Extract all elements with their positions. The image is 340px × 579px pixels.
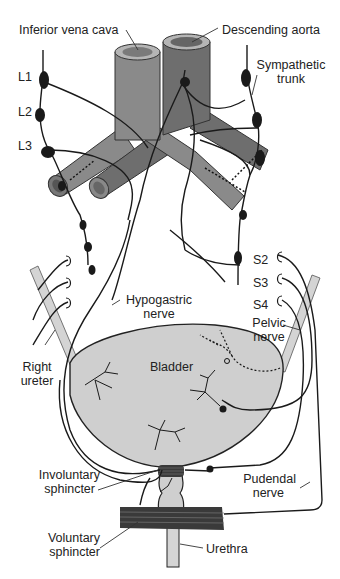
label-l3: L3 [18,139,32,153]
urethra [167,525,179,567]
label-l2: L2 [18,105,32,119]
label-s4: S4 [253,298,268,312]
label-hypogastric-nerve-2: nerve [118,307,200,321]
label-bladder: Bladder [150,360,193,374]
label-pelvic-nerve-2: nerve [244,330,294,344]
label-urethra: Urethra [206,542,248,556]
label-hypogastric-nerve-1: Hypogastric [118,293,200,307]
label-right-ureter-1: Right [14,360,60,374]
label-right-ureter-2: ureter [14,374,60,388]
label-pudendal-nerve-2: nerve [230,486,284,500]
label-involuntary-sphincter-2: sphincter [25,482,95,496]
label-involuntary-sphincter-1: Involuntary [25,468,100,482]
voluntary-sphincter [120,507,224,530]
inferior-vena-cava [115,44,160,140]
label-pudendal-nerve-1: Pudendal [230,472,296,486]
label-s2: S2 [253,253,268,267]
label-s3: S3 [253,276,268,290]
label-voluntary-sphincter-2: sphincter [30,545,100,559]
label-pelvic-nerve-1: Pelvic [244,316,294,330]
label-sympathetic-trunk-2: trunk [255,72,327,86]
bladder-innervation-diagram: Inferior vena cava Descending aorta Symp… [0,0,340,579]
vessels [44,34,268,210]
label-sympathetic-trunk-1: Sympathetic [255,58,327,72]
label-l1: L1 [18,70,32,84]
label-inferior-vena-cava: Inferior vena cava [19,23,118,37]
label-voluntary-sphincter-1: Voluntary [30,531,100,545]
label-descending-aorta: Descending aorta [222,23,320,37]
